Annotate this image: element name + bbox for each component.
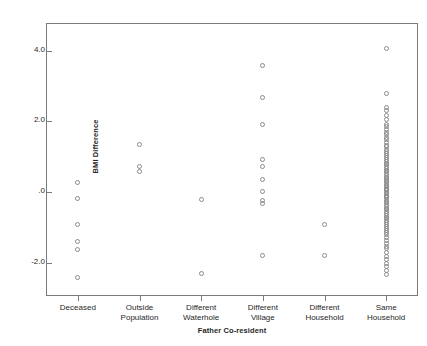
x-tick-line (78, 295, 79, 301)
y-tick-label: 4.0 (34, 45, 45, 54)
data-point (137, 169, 142, 174)
scatter-plot-figure: BMI Difference 4.02.0.0-2.0 DeceasedOuts… (0, 0, 427, 346)
data-point (260, 253, 265, 258)
data-point (75, 196, 80, 201)
data-point (260, 95, 265, 100)
x-tick-line (140, 295, 141, 301)
plot-area: BMI Difference 4.02.0.0-2.0 DeceasedOuts… (46, 23, 418, 296)
data-point (384, 46, 389, 51)
data-point (322, 222, 327, 227)
y-tick-line (47, 121, 52, 122)
x-tick-line (325, 295, 326, 301)
data-point (260, 177, 265, 182)
data-point (384, 91, 389, 96)
y-tick-line (47, 192, 52, 193)
data-point (384, 272, 389, 277)
data-point (260, 164, 265, 169)
data-point (260, 63, 265, 68)
data-point (75, 239, 80, 244)
x-axis-title: Father Co-resident (46, 326, 418, 335)
data-point (75, 222, 80, 227)
data-point (322, 253, 327, 258)
data-point (75, 247, 80, 252)
y-tick-line (47, 51, 52, 52)
data-point (260, 122, 265, 127)
y-tick-label: 2.0 (34, 115, 45, 124)
data-point (260, 157, 265, 162)
y-axis-title: BMI Difference (91, 77, 100, 217)
data-point (75, 275, 80, 280)
data-point (199, 271, 204, 276)
data-point (137, 142, 142, 147)
x-tick-line (386, 295, 387, 301)
data-point (199, 197, 204, 202)
x-tick-label: SameHousehold (346, 303, 426, 323)
x-tick-line (201, 295, 202, 301)
y-tick-label: -2.0 (31, 257, 45, 266)
data-point (75, 180, 80, 185)
x-tick-line (263, 295, 264, 301)
y-tick-line (47, 263, 52, 264)
y-tick-label: .0 (38, 186, 45, 195)
data-point (260, 189, 265, 194)
data-point (260, 201, 265, 206)
